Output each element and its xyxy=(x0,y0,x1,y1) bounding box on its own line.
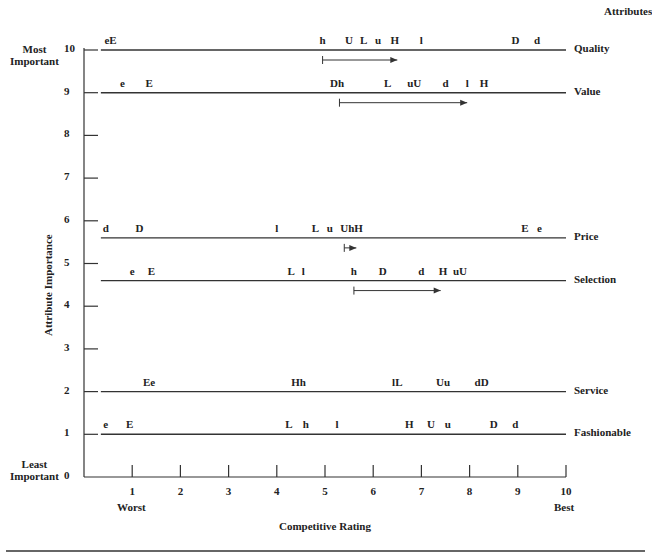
brand-marker: E xyxy=(145,77,152,89)
y-tick-label: 10 xyxy=(64,42,75,54)
brand-marker: l xyxy=(466,77,469,89)
arrow-head-icon xyxy=(460,100,467,106)
brand-marker: E xyxy=(148,265,155,277)
brand-marker: L xyxy=(288,265,295,277)
brand-marker: l xyxy=(420,34,423,46)
brand-marker: d xyxy=(418,265,424,277)
legend-header: Attributes xyxy=(604,5,652,17)
y-tick-label: 2 xyxy=(64,384,70,396)
arrow-head-icon xyxy=(349,245,356,251)
brand-marker: u xyxy=(327,222,333,234)
y-tick-label: 3 xyxy=(64,341,70,353)
attribute-label-value: Value xyxy=(574,85,601,97)
y-tick-label: 8 xyxy=(64,127,70,139)
brand-marker: D xyxy=(135,222,143,234)
brand-marker: l xyxy=(275,222,278,234)
brand-marker: H xyxy=(480,77,489,89)
brand-marker: D xyxy=(511,34,519,46)
y-axis-title: Attribute Importance xyxy=(42,234,54,336)
brand-marker: Hh xyxy=(291,376,306,388)
attribute-label-fashionable: Fashionable xyxy=(574,426,631,438)
x-tick-label: 3 xyxy=(226,485,232,497)
x-tick-label: 8 xyxy=(467,485,473,497)
brand-marker: h xyxy=(320,34,326,46)
y-top-label: MostImportant xyxy=(10,43,59,67)
brand-marker: L xyxy=(285,418,292,430)
brand-marker: Uu xyxy=(436,376,450,388)
arrow-head-icon xyxy=(434,288,441,294)
y-bottom-label: LeastImportant xyxy=(10,458,59,482)
x-tick-label: 1 xyxy=(129,485,135,497)
brand-marker: E xyxy=(521,222,528,234)
brand-marker: U xyxy=(345,34,353,46)
brand-marker: D xyxy=(379,265,387,277)
brand-marker: E xyxy=(126,418,133,430)
brand-marker: d xyxy=(103,222,109,234)
attribute-label-selection: Selection xyxy=(574,273,616,285)
x-tick-label: 6 xyxy=(370,485,376,497)
brand-marker: l xyxy=(302,265,305,277)
brand-marker: e xyxy=(103,418,108,430)
brand-marker: uU xyxy=(407,77,421,89)
brand-marker: d xyxy=(442,77,448,89)
x-left-label: Worst xyxy=(117,501,146,513)
x-tick-label: 4 xyxy=(274,485,280,497)
brand-marker: U xyxy=(427,418,435,430)
y-tick-label: 9 xyxy=(64,85,70,97)
arrow-head-icon xyxy=(390,57,397,63)
brand-marker: L xyxy=(360,34,367,46)
y-tick-label: 6 xyxy=(64,213,70,225)
y-tick-label: 5 xyxy=(64,256,70,268)
attribute-label-quality: Quality xyxy=(574,42,609,54)
brand-marker: L xyxy=(312,222,319,234)
x-tick-label: 10 xyxy=(561,485,572,497)
brand-marker: u xyxy=(375,34,381,46)
attribute-label-service: Service xyxy=(574,384,608,396)
x-right-label: Best xyxy=(554,501,574,513)
brand-marker: l xyxy=(336,418,339,430)
x-tick-label: 5 xyxy=(322,485,328,497)
brand-marker: H xyxy=(439,265,448,277)
brand-marker: H xyxy=(405,418,414,430)
x-axis-title: Competitive Rating xyxy=(279,520,371,532)
brand-marker: u xyxy=(445,418,451,430)
brand-marker: eE xyxy=(104,34,116,46)
brand-marker: H xyxy=(391,34,400,46)
brand-marker: d xyxy=(534,34,540,46)
brand-marker: Ee xyxy=(143,376,155,388)
y-tick-label: 1 xyxy=(64,426,70,438)
brand-marker: UhH xyxy=(340,222,363,234)
x-tick-label: 7 xyxy=(419,485,425,497)
x-tick-label: 2 xyxy=(178,485,184,497)
brand-marker: D xyxy=(490,418,498,430)
brand-marker: e xyxy=(537,222,542,234)
x-tick-label: 9 xyxy=(515,485,521,497)
brand-marker: e xyxy=(130,265,135,277)
brand-marker: e xyxy=(120,77,125,89)
brand-marker: dD xyxy=(475,376,489,388)
brand-marker: Dh xyxy=(330,77,344,89)
brand-marker: lL xyxy=(392,376,402,388)
attribute-label-price: Price xyxy=(574,230,598,242)
y-tick-label: 0 xyxy=(64,469,70,481)
y-tick-label: 4 xyxy=(64,298,70,310)
brand-marker: uU xyxy=(453,265,467,277)
brand-marker: h xyxy=(351,265,357,277)
brand-marker: h xyxy=(303,418,309,430)
brand-marker: d xyxy=(512,418,518,430)
y-tick-label: 7 xyxy=(64,170,70,182)
brand-marker: L xyxy=(384,77,391,89)
